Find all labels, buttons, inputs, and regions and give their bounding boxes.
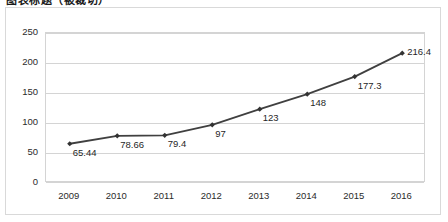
- data-point-label: 79.4: [168, 139, 187, 149]
- data-point-marker: [67, 141, 72, 146]
- y-axis-tick-label: 100: [8, 117, 38, 127]
- x-axis-tick-label: 2016: [381, 190, 421, 201]
- series-markers: [67, 51, 405, 147]
- plot-area: [45, 32, 425, 182]
- data-point-label: 65.44: [73, 148, 97, 158]
- x-axis-tick-label: 2014: [286, 190, 326, 201]
- page-title: 图表标题（被裁切）: [6, 0, 110, 6]
- data-point-marker: [162, 133, 167, 138]
- x-axis-tick-label: 2010: [96, 190, 136, 201]
- x-axis-tick-label: 2012: [191, 190, 231, 201]
- x-axis-tick-label: 2009: [49, 190, 89, 201]
- data-point-label: 148: [310, 98, 326, 108]
- data-point-marker: [305, 92, 310, 97]
- x-axis-tick-label: 2011: [144, 190, 184, 201]
- data-point-label: 97: [215, 129, 226, 139]
- x-axis-tick-label: 2013: [239, 190, 279, 201]
- series-line-chart: [46, 33, 426, 183]
- data-point-marker: [115, 133, 120, 138]
- chart-title-strip: 图表标题（被裁切）: [0, 0, 448, 6]
- data-point-label: 177.3: [358, 81, 382, 91]
- y-axis-tick-label: 50: [8, 147, 38, 157]
- y-axis-tick-label: 150: [8, 87, 38, 97]
- series-line: [70, 53, 403, 144]
- x-axis-tick-label: 2015: [334, 190, 374, 201]
- y-axis-tick-label: 250: [8, 27, 38, 37]
- data-point-label: 123: [263, 113, 279, 123]
- chart-frame: 050100150200250 65.4478.6679.49712314817…: [5, 7, 441, 215]
- data-point-label: 78.66: [120, 140, 144, 150]
- y-axis-tick-label: 200: [8, 57, 38, 67]
- data-point-marker: [257, 107, 262, 112]
- y-axis-tick-label: 0: [8, 177, 38, 187]
- data-point-label: 216.4: [407, 47, 431, 57]
- data-point-marker: [210, 122, 215, 127]
